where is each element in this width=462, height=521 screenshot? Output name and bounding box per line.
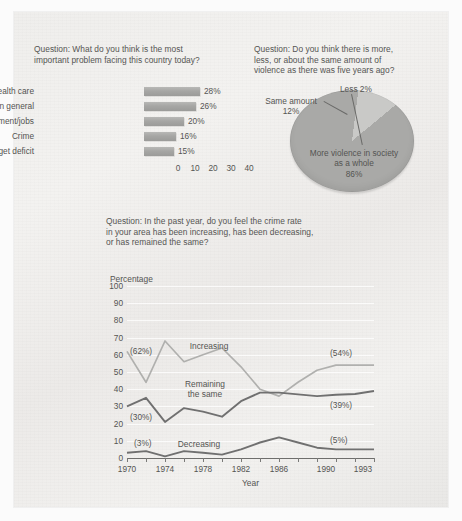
bar-value-label: 28%: [204, 86, 221, 97]
bar-track: [144, 87, 200, 97]
x-tick: [127, 458, 128, 462]
bar-chart-x-axis: 0 10 20 30 40: [178, 163, 258, 181]
bar-x-tick: 0: [176, 163, 181, 173]
bar-fill: [144, 87, 200, 97]
x-tick-label: 1982: [232, 464, 250, 474]
line-chart-panel: Question: In the past year, do you feel …: [96, 216, 396, 486]
x-tick: [184, 458, 185, 462]
pie-chart-question: Question: Do you think there is more, le…: [254, 44, 439, 76]
y-tick-label: 60: [114, 351, 123, 359]
x-tick-label: 1990: [317, 464, 335, 474]
y-tick-label: 20: [114, 420, 123, 428]
line-series-group: [127, 286, 374, 458]
x-tick: [203, 458, 204, 462]
series-label-decreasing: Decreasing: [167, 440, 231, 450]
x-tick: [374, 458, 375, 462]
endpoint-label-decreasing-end: (5%): [330, 435, 348, 445]
y-tick-label: 50: [114, 368, 123, 376]
bar-category-label: Crime: [0, 131, 34, 142]
pie-chart-panel: Question: Do you think there is more, le…: [254, 44, 444, 194]
series-label-remaining-the-same: Remaining the same: [175, 380, 235, 399]
x-axis-title: Year: [127, 478, 374, 488]
bar-track: [144, 102, 196, 112]
bar-track: [144, 117, 184, 127]
x-tick-label: 1974: [156, 464, 174, 474]
line-chart-question: Question: In the past year, do you feel …: [106, 216, 396, 248]
y-tick-label: 80: [114, 316, 123, 324]
endpoint-label-remaining-end: (39%): [330, 400, 352, 410]
bar-value-label: 15%: [178, 146, 195, 157]
line-chart-plot-area: 100 90 80 70 60 50 40 30 20 10 0: [127, 286, 374, 458]
bar-value-label: 26%: [200, 101, 217, 112]
bar-x-tick: 20: [208, 163, 217, 173]
bar-fill: [144, 102, 196, 112]
y-tick-label: 90: [114, 299, 123, 307]
x-tick: [298, 458, 299, 462]
bar-fill: [144, 147, 174, 157]
x-tick: [279, 458, 280, 462]
x-tick: [146, 458, 147, 462]
bar-chart-question: Question: What do you think is the most …: [34, 44, 249, 65]
bar-category-label: Health care: [0, 86, 34, 97]
y-tick-label: 10: [114, 437, 123, 445]
x-tick: [317, 458, 318, 462]
pie-slice-label-less: Less 2%: [340, 84, 372, 94]
bar-value-label: 20%: [188, 116, 205, 127]
x-tick: [222, 458, 223, 462]
x-tick: [165, 458, 166, 462]
bar-fill: [144, 117, 184, 127]
y-tick-label: 100: [109, 282, 123, 290]
x-tick-label: 1978: [194, 464, 212, 474]
x-tick-label: 1970: [118, 464, 136, 474]
x-tick: [241, 458, 242, 462]
bar-track: [144, 132, 176, 142]
bar-category-label: Economy in general: [0, 101, 34, 112]
x-tick: [355, 458, 356, 462]
page-canvas: Question: What do you think is the most …: [0, 0, 462, 521]
pie-slice-label-more-violence: More violence in society as a whole 86%: [302, 148, 406, 179]
x-tick-label: 1986: [270, 464, 288, 474]
bar-x-tick: 30: [226, 163, 235, 173]
bar-category-label: Federal budget deficit: [0, 146, 34, 157]
endpoint-label-decreasing-start: (3%): [134, 438, 152, 448]
bar-x-tick: 40: [244, 163, 253, 173]
x-tick: [260, 458, 261, 462]
bar-value-label: 16%: [180, 131, 197, 142]
pie-slice-label-same-amount: Same amount 12%: [254, 96, 328, 116]
x-tick: [336, 458, 337, 462]
y-tick-label: 0: [118, 454, 123, 462]
endpoint-label-increasing-start: (62%): [130, 346, 152, 356]
bar-chart-panel: Question: What do you think is the most …: [34, 44, 256, 184]
endpoint-label-increasing-end: (54%): [330, 348, 352, 358]
bar-x-tick: 10: [190, 163, 199, 173]
bar-track: [144, 147, 174, 157]
x-tick-label: 1993: [354, 464, 372, 474]
endpoint-label-remaining-start: (30%): [130, 412, 152, 422]
y-tick-label: 30: [114, 402, 123, 410]
y-tick-label: 70: [114, 334, 123, 342]
bar-fill: [144, 132, 176, 142]
y-tick-label: 40: [114, 385, 123, 393]
bar-category-label: Unemployment/jobs: [0, 116, 34, 127]
series-label-increasing: Increasing: [179, 342, 239, 352]
